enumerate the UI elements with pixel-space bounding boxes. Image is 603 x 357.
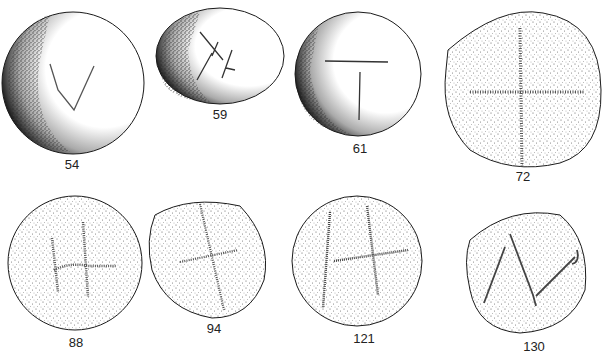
stone-61 bbox=[295, 12, 421, 136]
label-121: 121 bbox=[353, 332, 375, 345]
label-72: 72 bbox=[516, 170, 530, 183]
label-61: 61 bbox=[353, 142, 367, 155]
stone-121 bbox=[292, 196, 422, 326]
stone-72 bbox=[445, 12, 601, 168]
stone-59 bbox=[156, 8, 284, 104]
stone-54 bbox=[2, 12, 144, 154]
label-54: 54 bbox=[65, 158, 79, 171]
label-94: 94 bbox=[207, 322, 221, 335]
stone-88 bbox=[8, 196, 142, 330]
stones-drawing bbox=[0, 0, 603, 357]
figure-plate: 54 59 61 72 88 94 121 130 bbox=[0, 0, 603, 357]
label-130: 130 bbox=[523, 340, 545, 353]
stone-130 bbox=[467, 213, 586, 333]
stone-94 bbox=[149, 202, 265, 318]
label-59: 59 bbox=[213, 108, 227, 121]
label-88: 88 bbox=[69, 336, 83, 349]
